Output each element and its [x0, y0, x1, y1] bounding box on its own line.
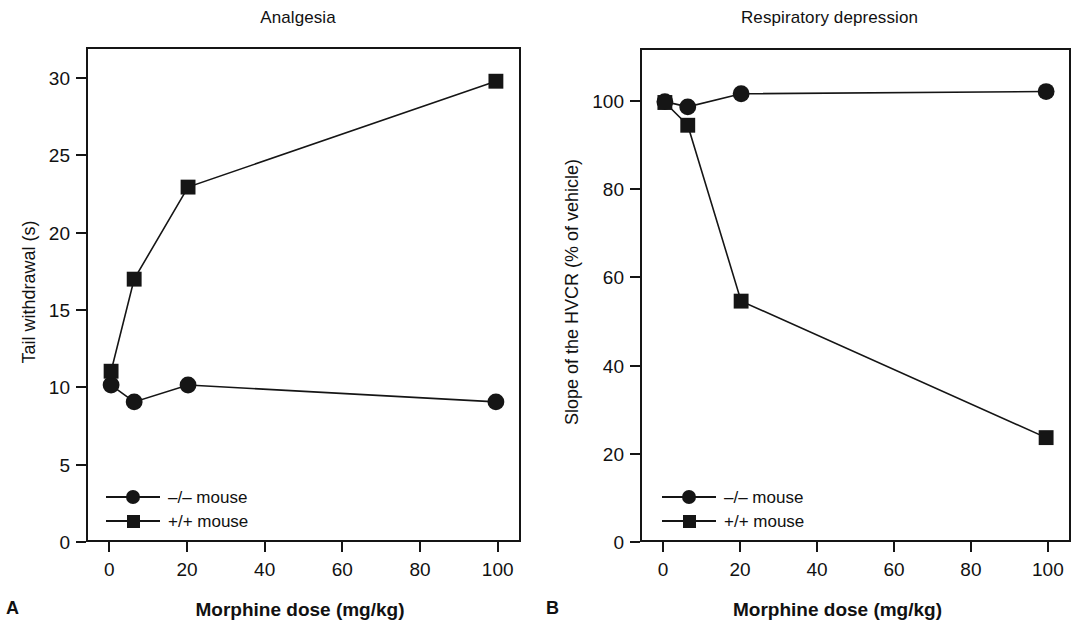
series-line — [665, 103, 1046, 438]
data-point-marker — [733, 85, 750, 102]
legend-label-wildtype: +/+ mouse — [724, 512, 804, 531]
panel-b-xaxis-title: Morphine dose (mg/kg) — [540, 598, 1079, 622]
y-axis-tick-label: 5 — [10, 455, 70, 474]
data-point-marker — [488, 74, 503, 89]
panel-respiratory-depression: Respiratory depression Slope of the HVCR… — [540, 0, 1079, 626]
y-axis-tick — [630, 365, 640, 367]
y-axis-tick — [630, 100, 640, 102]
panel-a-plot-area — [86, 47, 521, 542]
data-point-marker — [127, 272, 142, 287]
y-axis-tick — [76, 309, 86, 311]
legend-label-knockout: –/– mouse — [168, 488, 247, 507]
x-axis-tick — [341, 542, 343, 552]
series-line — [665, 92, 1046, 107]
y-axis-tick — [76, 154, 86, 156]
panel-b-plot-area — [640, 48, 1071, 542]
y-axis-tick-label: 10 — [10, 378, 70, 397]
y-axis-tick — [76, 77, 86, 79]
series-line — [111, 385, 496, 402]
x-axis-tick — [264, 542, 266, 552]
legend-marker-square-icon — [106, 511, 160, 531]
data-point-marker — [679, 98, 696, 115]
x-axis-tick-label: 60 — [859, 560, 929, 579]
legend-marker-circle-icon — [106, 487, 160, 507]
panel-a-xaxis-title: Morphine dose (mg/kg) — [0, 598, 570, 622]
legend-label-wildtype: +/+ mouse — [168, 512, 248, 531]
x-axis-tick — [497, 542, 499, 552]
panel-b-title: Respiratory depression — [540, 8, 1079, 28]
data-point-marker — [126, 393, 143, 410]
x-axis-tick — [893, 542, 895, 552]
x-axis-tick — [739, 542, 741, 552]
y-axis-tick-label: 15 — [10, 300, 70, 319]
x-axis-tick — [816, 542, 818, 552]
y-axis-tick-label: 0 — [10, 533, 70, 552]
y-axis-tick — [630, 188, 640, 190]
data-point-marker — [734, 294, 749, 309]
legend-label-knockout: –/– mouse — [724, 488, 803, 507]
data-point-marker — [657, 95, 672, 110]
data-point-marker — [680, 118, 695, 133]
legend-entry-knockout: –/– mouse — [662, 485, 804, 509]
x-axis-tick — [1047, 542, 1049, 552]
x-axis-tick — [970, 542, 972, 552]
panel-a-data-canvas — [88, 49, 519, 540]
y-axis-tick-label: 25 — [10, 146, 70, 165]
y-axis-tick-label: 30 — [10, 68, 70, 87]
y-axis-tick-label: 20 — [564, 444, 624, 463]
x-axis-tick-label: 40 — [230, 560, 300, 579]
data-point-marker — [1039, 430, 1054, 445]
x-axis-tick-label: 80 — [385, 560, 455, 579]
y-axis-tick — [630, 276, 640, 278]
data-point-marker — [103, 377, 120, 394]
x-axis-tick — [662, 542, 664, 552]
data-point-marker — [1038, 83, 1055, 100]
data-point-marker — [181, 180, 196, 195]
legend-marker-circle-icon — [662, 487, 716, 507]
y-axis-tick-label: 100 — [564, 91, 624, 110]
panel-a-title: Analgesia — [0, 8, 568, 28]
data-point-marker — [180, 377, 197, 394]
legend-entry-wildtype: +/+ mouse — [662, 509, 804, 533]
data-point-marker — [104, 364, 119, 379]
y-axis-tick — [630, 453, 640, 455]
y-axis-tick — [76, 464, 86, 466]
x-axis-tick-label: 100 — [463, 560, 533, 579]
y-axis-tick-label: 20 — [10, 223, 70, 242]
legend-marker-square-icon — [662, 511, 716, 531]
x-axis-tick-label: 60 — [307, 560, 377, 579]
y-axis-tick-label: 60 — [564, 268, 624, 287]
panel-b-legend: –/– mouse +/+ mouse — [662, 485, 804, 533]
panel-a-legend: –/– mouse +/+ mouse — [106, 485, 248, 533]
y-axis-tick-label: 0 — [564, 533, 624, 552]
x-axis-tick-label: 20 — [152, 560, 222, 579]
data-point-marker — [487, 393, 504, 410]
x-axis-tick — [108, 542, 110, 552]
y-axis-tick — [76, 541, 86, 543]
x-axis-tick — [419, 542, 421, 552]
y-axis-tick — [630, 541, 640, 543]
x-axis-tick-label: 40 — [782, 560, 852, 579]
panel-a-yaxis-title: Tail withdrawal (s) — [19, 127, 39, 457]
y-axis-tick-label: 80 — [564, 180, 624, 199]
y-axis-tick — [76, 232, 86, 234]
legend-entry-knockout: –/– mouse — [106, 485, 248, 509]
x-axis-tick-label: 0 — [74, 560, 144, 579]
panel-b-yaxis-title: Slope of the HVCR (% of vehicle) — [562, 92, 582, 492]
x-axis-tick-label: 0 — [628, 560, 698, 579]
x-axis-tick-label: 20 — [705, 560, 775, 579]
x-axis-tick-label: 80 — [936, 560, 1006, 579]
figure-root: Analgesia Tail withdrawal (s) 0510152025… — [0, 0, 1079, 626]
y-axis-tick — [76, 386, 86, 388]
series-line — [111, 81, 496, 371]
x-axis-tick — [186, 542, 188, 552]
panel-b-data-canvas — [642, 50, 1069, 540]
x-axis-tick-label: 100 — [1013, 560, 1079, 579]
legend-entry-wildtype: +/+ mouse — [106, 509, 248, 533]
y-axis-tick-label: 40 — [564, 356, 624, 375]
panel-analgesia: Analgesia Tail withdrawal (s) 0510152025… — [0, 0, 540, 626]
